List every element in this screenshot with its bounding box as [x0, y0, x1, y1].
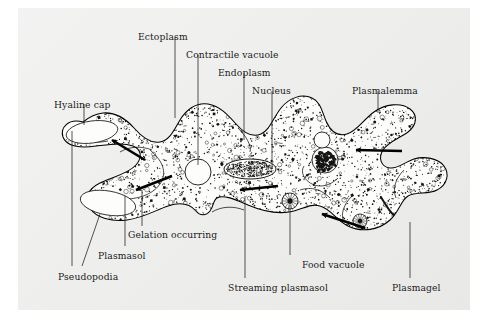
label-pseudopodia: Pseudopodia [58, 272, 118, 282]
ectoplasm-boundary-7 [212, 207, 244, 212]
label-nucleus: Nucleus [252, 86, 291, 96]
label-contractile-vacuole: Contractile vacuole [186, 50, 279, 60]
figure-page: EctoplasmContractile vacuoleEndoplasmNuc… [0, 0, 482, 331]
label-plasmasol: Plasmasol [98, 251, 146, 261]
label-plasmalemma: Plasmalemma [352, 86, 418, 96]
label-gelation-occurring: Gelation occurring [128, 230, 217, 240]
label-food-vacuole: Food vacuole [302, 260, 365, 270]
vacuole-clear [314, 132, 330, 148]
label-hyaline-cap: Hyaline cap [54, 100, 110, 110]
label-endoplasm: Endoplasm [218, 68, 271, 78]
arrow-right-upper [356, 150, 402, 151]
label-streaming-plasmasol: Streaming plasmasol [228, 283, 328, 293]
label-plasmagel: Plasmagel [392, 283, 441, 293]
label-ectoplasm: Ectoplasm [138, 32, 188, 42]
